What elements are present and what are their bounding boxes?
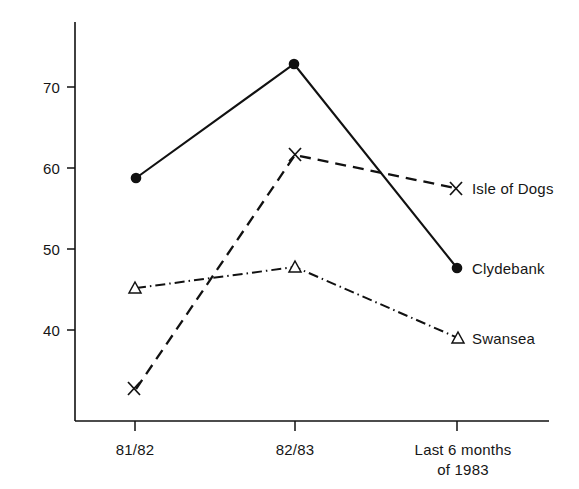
x-axis-tick-label-81-82: 81/82 xyxy=(116,440,155,460)
data-point-clydebank-82-83 xyxy=(289,59,300,70)
x-axis-tick-label-line1: Last 6 months xyxy=(415,441,512,458)
series-clydebank-line xyxy=(136,64,457,268)
data-point-isle-of-dogs-82-83 xyxy=(289,148,301,161)
data-point-swansea-82-83 xyxy=(289,261,301,272)
x-axis-tick-label-82-83: 82/83 xyxy=(276,440,315,460)
y-axis-tick-label-60: 60 xyxy=(20,160,60,177)
series-label-swansea: Swansea xyxy=(472,330,535,347)
data-point-clydebank-last-6-months xyxy=(452,263,463,274)
series-swansea-line xyxy=(136,267,458,338)
y-axis-tick-label-40: 40 xyxy=(20,322,60,339)
data-point-swansea-last-6-months xyxy=(452,332,464,343)
axes xyxy=(67,22,549,431)
y-axis-tick-label-50: 50 xyxy=(20,241,60,258)
x-axis-tick-label-line2: of 1983 xyxy=(437,461,488,478)
chart-plot-area xyxy=(0,0,579,489)
data-point-isle-of-dogs-last-6-months xyxy=(450,182,462,195)
data-point-isle-of-dogs-81-82 xyxy=(128,382,140,395)
x-axis-tick-label-last-6-months: Last 6 months of 1983 xyxy=(415,440,512,481)
series-clydebank xyxy=(131,59,463,274)
y-axis-tick-label-70: 70 xyxy=(20,79,60,96)
line-chart: 70 60 50 40 81/82 82/83 Last 6 months of… xyxy=(0,0,579,489)
series-label-isle-of-dogs: Isle of Dogs xyxy=(472,180,554,197)
data-point-clydebank-81-82 xyxy=(131,173,142,184)
series-label-clydebank: Clydebank xyxy=(472,260,545,277)
series-swansea xyxy=(129,261,464,343)
